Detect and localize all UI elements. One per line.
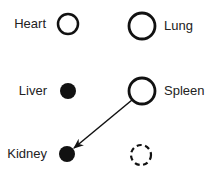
label-lung: Lung <box>164 19 193 33</box>
diagram-canvas: Heart Lung Liver Spleen Kidney <box>0 0 215 179</box>
label-spleen: Spleen <box>164 84 204 98</box>
node-spleen-circle[interactable] <box>129 78 155 104</box>
node-liver-dot[interactable] <box>60 83 76 99</box>
label-kidney: Kidney <box>4 147 47 161</box>
node-unlabeled-dashed-circle[interactable] <box>131 145 151 165</box>
edge-spleen-to-kidney <box>74 100 132 148</box>
label-liver: Liver <box>10 84 47 98</box>
label-heart: Heart <box>10 17 46 31</box>
node-lung-circle[interactable] <box>129 13 155 39</box>
node-heart-circle[interactable] <box>58 14 78 34</box>
node-kidney-dot[interactable] <box>59 146 75 162</box>
